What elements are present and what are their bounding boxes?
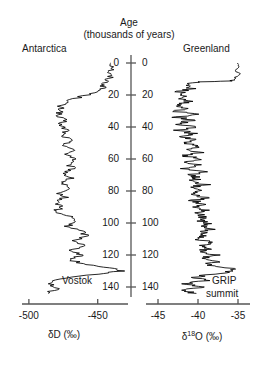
age-tick-left-140: 140 [89, 282, 119, 292]
core-label-vostok: Vostok [62, 276, 92, 286]
isotope-mass-number: 18 [187, 330, 195, 337]
right-xtick--45: -45 [143, 311, 173, 321]
right-axis-caption: δ18O (‰) [146, 330, 258, 342]
age-tick-left-0: 0 [89, 58, 119, 68]
right-xtick--35: -35 [223, 311, 253, 321]
region-label-greenland: Greenland [183, 44, 230, 54]
figure-title-line2: (thousands of years) [0, 30, 258, 40]
region-label-antarctica: Antarctica [22, 44, 66, 54]
age-tick-left-60: 60 [89, 154, 119, 164]
age-tick-left-100: 100 [89, 218, 119, 228]
left-xtick--500: -500 [14, 311, 44, 321]
age-tick-right-100: 100 [142, 218, 172, 228]
core-label-grip: GRIP [212, 276, 236, 286]
age-tick-left-40: 40 [89, 122, 119, 132]
age-tick-right-80: 80 [142, 186, 172, 196]
age-tick-right-60: 60 [142, 154, 172, 164]
left-axis-caption: δD (‰) [0, 330, 128, 340]
age-tick-right-20: 20 [142, 90, 172, 100]
curve-grip-summit [172, 63, 240, 293]
age-tick-right-120: 120 [142, 250, 172, 260]
age-tick-right-140: 140 [142, 282, 172, 292]
age-tick-left-80: 80 [89, 186, 119, 196]
core-label-grip-summit: summit [206, 289, 238, 299]
age-tick-right-40: 40 [142, 122, 172, 132]
age-tick-right-0: 0 [142, 58, 172, 68]
right-xtick--40: -40 [183, 311, 213, 321]
figure-title-line1: Age [0, 18, 258, 28]
left-xtick--450: -450 [83, 311, 113, 321]
age-tick-left-120: 120 [89, 250, 119, 260]
age-tick-left-20: 20 [89, 90, 119, 100]
right-axis-caption-suffix: O (‰) [195, 331, 222, 342]
